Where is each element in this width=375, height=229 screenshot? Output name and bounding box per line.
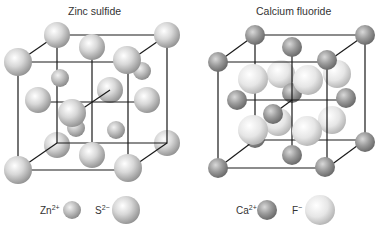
f-ion-sphere xyxy=(238,64,268,94)
s-ion-sphere xyxy=(134,87,160,113)
ca-ion-sphere xyxy=(336,88,356,108)
ca-ion-sphere xyxy=(282,37,302,57)
s-ion-sphere xyxy=(58,99,86,127)
ion-symbol: S xyxy=(95,205,102,216)
ion-symbol: Zn xyxy=(40,205,52,216)
ca-ion-sphere xyxy=(315,157,335,177)
s-ion-sphere xyxy=(4,156,32,184)
s-ion-sphere xyxy=(44,22,70,48)
f-ion-sphere xyxy=(238,115,268,145)
legend-f-sphere xyxy=(305,195,335,225)
s-ion-sphere xyxy=(114,154,142,182)
ion-symbol: Ca xyxy=(236,205,249,216)
ca-ion-sphere xyxy=(282,145,302,165)
ca-ion-sphere xyxy=(245,25,265,45)
legend-zn-label: Zn2+ xyxy=(40,204,60,216)
ca-ion-sphere xyxy=(208,158,228,178)
f-ion-sphere xyxy=(292,116,322,146)
ca-ion-sphere xyxy=(355,132,375,152)
legend-zn-sphere xyxy=(63,201,81,219)
zn-ion-sphere xyxy=(51,69,69,87)
ca-ion-sphere xyxy=(317,50,337,70)
s-ion-sphere xyxy=(4,48,32,76)
ion-charge: 2+ xyxy=(249,204,257,211)
legend-s-label: S2− xyxy=(95,204,110,216)
s-ion-sphere xyxy=(25,87,51,113)
ca-ion-sphere xyxy=(227,90,247,110)
legend-f-label: F− xyxy=(292,204,302,216)
zinc-sulfide-unit-cell xyxy=(4,22,180,184)
crystal-structures-diagram xyxy=(0,0,375,229)
s-ion-sphere xyxy=(79,34,105,60)
legend-s-sphere xyxy=(112,196,140,224)
ion-charge: 2+ xyxy=(52,204,60,211)
f-ion-sphere xyxy=(293,65,323,95)
ca-ion-sphere xyxy=(263,104,283,124)
legend-ca-label: Ca2+ xyxy=(236,204,257,216)
s-ion-sphere xyxy=(113,46,141,74)
s-ion-sphere xyxy=(79,142,105,168)
zn-ion-sphere xyxy=(107,121,125,139)
ca-ion-sphere xyxy=(208,52,228,72)
ion-charge: − xyxy=(298,204,302,211)
legend-ca-sphere xyxy=(257,200,277,220)
s-ion-sphere xyxy=(154,22,180,48)
ion-charge: 2− xyxy=(102,204,110,211)
f-ion-sphere xyxy=(318,106,346,134)
calcium-fluoride-unit-cell xyxy=(208,25,375,178)
ca-ion-sphere xyxy=(355,25,375,45)
